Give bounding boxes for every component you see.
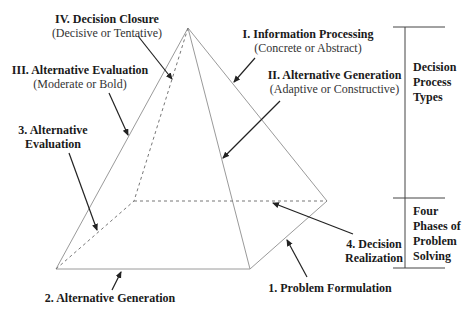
bracket-label-four-phases: Four Phases of Problem Solving	[413, 204, 461, 264]
label-alternative-evaluation-type: III. Alternative Evaluation (Moderate or…	[5, 63, 155, 91]
label-line2: Realization	[334, 251, 414, 265]
label-alternative-evaluation-phase: 3. Alternative Evaluation	[8, 123, 98, 151]
label-line1: 3. Alternative	[8, 123, 98, 137]
label-line1: 4. Decision	[334, 237, 414, 251]
label-problem-formulation: 1. Problem Formulation	[265, 281, 395, 295]
bracket-label-line: Types	[413, 90, 456, 105]
label-alternative-generation-type: II. Alternative Generation (Adaptive or …	[262, 68, 407, 96]
label-title: I. Information Processing	[233, 27, 383, 41]
bracket-label-line: Solving	[413, 249, 461, 264]
arrow-alternative-generation-type	[223, 101, 280, 158]
bracket-label-decision-process-types: Decision Process Types	[413, 60, 456, 105]
arrow-alternative-evaluation-type	[109, 93, 128, 135]
arrow-decision-realization	[273, 203, 353, 234]
bracket-label-line: Decision	[413, 60, 456, 75]
bracket-label-line: Process	[413, 75, 456, 90]
label-subtitle: (Concrete or Abstract)	[233, 41, 383, 55]
arrow-problem-formulation	[287, 240, 307, 277]
edge-base-right	[250, 201, 327, 269]
label-decision-closure: IV. Decision Closure (Decisive or Tentat…	[32, 12, 182, 40]
edge-apex-front-right	[188, 28, 250, 269]
label-information-processing: I. Information Processing (Concrete or A…	[233, 27, 383, 55]
label-decision-realization: 4. Decision Realization	[334, 237, 414, 265]
label-line2: Evaluation	[8, 137, 98, 151]
arrow-information-processing	[234, 58, 255, 82]
arrow-alternative-generation-phase	[112, 272, 121, 290]
label-title: III. Alternative Evaluation	[5, 63, 155, 77]
edge-apex-back-left-hidden	[134, 28, 188, 201]
edge-base-left-hidden	[56, 201, 134, 269]
label-title: II. Alternative Generation	[262, 68, 407, 82]
bracket-label-line: Problem	[413, 234, 461, 249]
bracket-label-line: Four	[413, 204, 461, 219]
label-subtitle: (Moderate or Bold)	[5, 77, 155, 91]
label-title: 2. Alternative Generation	[35, 291, 185, 305]
label-title: IV. Decision Closure	[32, 12, 182, 26]
label-alternative-generation-phase: 2. Alternative Generation	[35, 291, 185, 305]
bracket-label-line: Phases of	[413, 219, 461, 234]
label-title: 1. Problem Formulation	[265, 281, 395, 295]
label-subtitle: (Decisive or Tentative)	[32, 26, 182, 40]
arrow-alternative-evaluation-phase	[69, 153, 97, 230]
label-subtitle: (Adaptive or Constructive)	[262, 82, 407, 96]
